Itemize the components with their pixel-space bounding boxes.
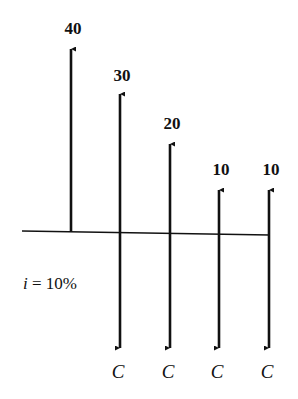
cash-flows: 4030C20C10C10C: [65, 19, 280, 382]
receipt-label-3: 10: [213, 160, 230, 179]
receipt-label-2: 20: [164, 114, 181, 133]
receipt-label-1: 30: [114, 66, 131, 85]
cost-label-1: C: [112, 361, 125, 382]
receipt-label-0: 40: [65, 19, 82, 38]
cost-label-2: C: [162, 361, 175, 382]
cost-label-3: C: [211, 361, 224, 382]
interest-rate-label: i = 10%: [23, 274, 77, 293]
cash-flow-diagram: 4030C20C10C10C i = 10%: [0, 0, 298, 399]
time-axis: [22, 231, 270, 235]
receipt-label-4: 10: [263, 160, 280, 179]
cost-label-4: C: [261, 361, 274, 382]
